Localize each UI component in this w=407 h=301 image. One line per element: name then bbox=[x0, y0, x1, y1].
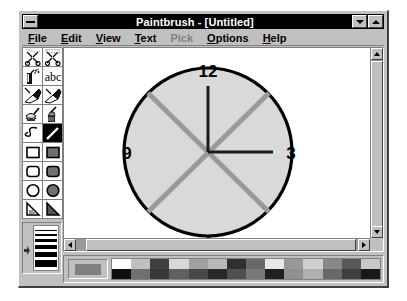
airbrush-tool[interactable] bbox=[23, 67, 43, 86]
color-swatch-r2-c11[interactable] bbox=[303, 269, 322, 279]
box-filled-tool[interactable] bbox=[43, 143, 63, 162]
system-menu-icon[interactable] bbox=[23, 15, 38, 28]
menu-label-text-rest: ext bbox=[141, 32, 157, 44]
color-swatch-r1-c7[interactable] bbox=[227, 259, 246, 269]
brush-tool[interactable] bbox=[43, 105, 63, 124]
line-tool[interactable] bbox=[43, 124, 63, 143]
color-swatch-r2-c9[interactable] bbox=[265, 269, 284, 279]
box-outline-tool[interactable] bbox=[23, 143, 43, 162]
color-swatch-r2-c13[interactable] bbox=[342, 269, 361, 279]
menu-item-file[interactable]: File bbox=[28, 32, 47, 44]
color-swatch-r1-c3[interactable] bbox=[150, 259, 169, 269]
line-width-selector[interactable] bbox=[22, 222, 62, 274]
window-title: Paintbrush - [Untitled] bbox=[38, 16, 352, 28]
horizontal-scroll-thumb[interactable] bbox=[86, 239, 356, 251]
menu-item-pick: Pick bbox=[170, 32, 193, 44]
vertical-scroll-thumb[interactable] bbox=[371, 61, 383, 229]
current-color-swatch bbox=[75, 264, 101, 275]
color-swatch-r2-c10[interactable] bbox=[284, 269, 303, 279]
color-swatch-r2-c1[interactable] bbox=[112, 269, 131, 279]
line-width-option-4[interactable] bbox=[35, 245, 57, 249]
color-swatch-r1-c13[interactable] bbox=[342, 259, 361, 269]
color-swatch-r2-c14[interactable] bbox=[361, 269, 380, 279]
color-swatch-r1-c9[interactable] bbox=[265, 259, 284, 269]
circle-outline-tool[interactable] bbox=[23, 181, 43, 200]
polygon-filled-tool[interactable] bbox=[43, 200, 63, 219]
color-swatch-r2-c3[interactable] bbox=[150, 269, 169, 279]
scroll-right-button[interactable] bbox=[358, 239, 370, 251]
menu-item-edit[interactable]: Edit bbox=[61, 32, 82, 44]
line-width-list[interactable] bbox=[33, 225, 59, 271]
color-swatch-r1-c11[interactable] bbox=[303, 259, 322, 269]
line-width-option-3[interactable] bbox=[35, 239, 57, 242]
curve-tool[interactable] bbox=[23, 124, 43, 143]
line-width-option-5[interactable] bbox=[35, 252, 57, 257]
workspace: abc bbox=[22, 47, 384, 283]
color-swatch-r2-c6[interactable] bbox=[208, 269, 227, 279]
menu-label-options-rest: ptions bbox=[216, 32, 249, 44]
maximize-icon[interactable] bbox=[368, 15, 383, 28]
color-eraser-tool[interactable] bbox=[23, 86, 43, 105]
clock-numeral-9: 9 bbox=[122, 144, 131, 163]
polygon-outline-tool[interactable] bbox=[23, 200, 43, 219]
menu-item-options[interactable]: Options bbox=[207, 32, 249, 44]
line-width-option-2[interactable] bbox=[35, 234, 57, 236]
color-swatch-r2-c7[interactable] bbox=[227, 269, 246, 279]
eraser-tool[interactable] bbox=[43, 86, 63, 105]
line-width-option-1[interactable] bbox=[35, 230, 57, 231]
menu-item-view[interactable]: View bbox=[96, 32, 121, 44]
line-width-marker-icon bbox=[24, 241, 32, 250]
text-tool[interactable]: abc bbox=[43, 67, 63, 86]
color-swatch-r1-c6[interactable] bbox=[208, 259, 227, 269]
color-swatch-r1-c8[interactable] bbox=[246, 259, 265, 269]
tool-palette: abc bbox=[22, 47, 62, 219]
color-swatch-r1-c12[interactable] bbox=[323, 259, 342, 269]
color-swatch-grid[interactable] bbox=[111, 258, 381, 280]
canvas-pane: 12 3 6 9 bbox=[63, 47, 384, 252]
clock-numeral-3: 3 bbox=[286, 144, 295, 163]
title-bar[interactable]: Paintbrush - [Untitled] bbox=[22, 14, 384, 29]
menu-bar: File Edit View Text Pick Options Help bbox=[22, 30, 384, 46]
color-swatch-r1-c1[interactable] bbox=[112, 259, 131, 269]
circle-filled-tool[interactable] bbox=[43, 181, 63, 200]
color-swatch-r1-c4[interactable] bbox=[169, 259, 188, 269]
color-swatch-r1-c14[interactable] bbox=[361, 259, 380, 269]
paintbrush-window: Paintbrush - [Untitled] File Edit View T… bbox=[18, 10, 389, 288]
line-width-option-6[interactable] bbox=[35, 260, 57, 267]
paint-roller-fill-tool[interactable] bbox=[23, 105, 43, 124]
color-swatch-r2-c12[interactable] bbox=[323, 269, 342, 279]
color-swatch-r2-c5[interactable] bbox=[189, 269, 208, 279]
scrollbar-corner bbox=[370, 238, 383, 251]
clock-numeral-12: 12 bbox=[199, 62, 218, 81]
color-swatch-r1-c2[interactable] bbox=[131, 259, 150, 269]
scissors-freeform-select-tool[interactable] bbox=[23, 48, 43, 67]
svg-text:abc: abc bbox=[44, 70, 61, 84]
menu-label-file-rest: ile bbox=[35, 32, 47, 44]
color-swatch-r2-c8[interactable] bbox=[246, 269, 265, 279]
color-swatch-r2-c4[interactable] bbox=[169, 269, 188, 279]
rounded-box-outline-tool[interactable] bbox=[23, 162, 43, 181]
menu-item-help[interactable]: Help bbox=[263, 32, 287, 44]
minimize-icon[interactable] bbox=[352, 15, 367, 28]
color-swatch-r2-c2[interactable] bbox=[131, 269, 150, 279]
color-palette bbox=[63, 255, 384, 283]
scissors-rectangle-select-tool[interactable] bbox=[43, 48, 63, 67]
menu-label-view-rest: iew bbox=[103, 32, 121, 44]
vertical-scrollbar[interactable] bbox=[370, 48, 383, 238]
color-swatch-r1-c5[interactable] bbox=[189, 259, 208, 269]
drawing-canvas[interactable]: 12 3 6 9 bbox=[64, 48, 370, 238]
rounded-box-filled-tool[interactable] bbox=[43, 162, 63, 181]
clock-face-drawing: 12 3 6 9 bbox=[64, 49, 358, 238]
menu-item-text[interactable]: Text bbox=[135, 32, 157, 44]
color-swatch-r1-c10[interactable] bbox=[284, 259, 303, 269]
current-color-indicator[interactable] bbox=[68, 259, 108, 279]
menu-label-help-rest: elp bbox=[271, 32, 287, 44]
horizontal-scrollbar[interactable] bbox=[64, 238, 370, 251]
scroll-left-button[interactable] bbox=[64, 239, 76, 251]
scroll-up-button[interactable] bbox=[371, 48, 383, 60]
scroll-down-button[interactable] bbox=[371, 226, 383, 238]
menu-label-edit-rest: dit bbox=[68, 32, 81, 44]
